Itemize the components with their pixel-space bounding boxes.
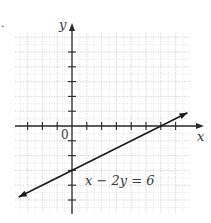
y-axis-label: y	[58, 17, 67, 32]
x-axis-label: x	[197, 129, 205, 144]
graph-figure: . y x 0 x − 2y = 6	[0, 0, 211, 223]
equation-label: x − 2y = 6	[85, 173, 155, 188]
origin-label: 0	[61, 128, 69, 142]
corner-mark: .	[1, 17, 5, 30]
